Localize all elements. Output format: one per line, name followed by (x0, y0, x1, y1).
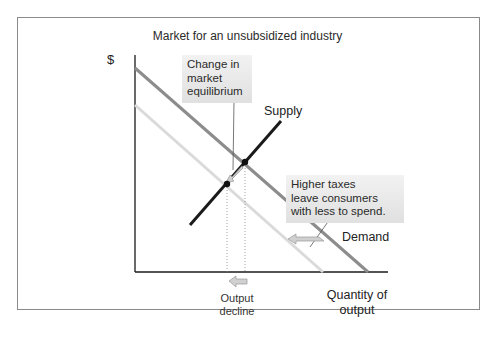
output-decline-line2: decline (212, 305, 262, 318)
equilibrium-callout-line2: market (187, 72, 247, 86)
equilibrium-point-original (242, 159, 248, 165)
taxes-callout-line1: Higher taxes (291, 178, 399, 192)
x-axis-label-line1: Quantity of (320, 288, 394, 303)
output-decline-arrow-icon (229, 276, 247, 287)
equilibrium-callout-line3: equilibrium (187, 85, 247, 99)
market-diagram (0, 0, 495, 341)
taxes-callout-line3: with less to spend. (291, 205, 399, 219)
x-axis-label-line2: output (320, 303, 394, 318)
supply-label: Supply (264, 104, 302, 118)
equilibrium-shift-arrow-icon (226, 166, 243, 183)
output-decline-line1: Output (212, 292, 262, 305)
demand-label: Demand (342, 230, 389, 244)
equilibrium-callout-line1: Change in (187, 58, 247, 72)
taxes-callout-line2: leave consumers (291, 192, 399, 206)
equilibrium-callout: Change in market equilibrium (182, 55, 252, 103)
taxes-callout: Higher taxes leave consumers with less t… (286, 175, 404, 223)
output-decline-label: Output decline (212, 292, 262, 318)
equilibrium-point-new (224, 181, 230, 187)
equilibrium-callout-leader (233, 100, 234, 170)
x-axis-label: Quantity of output (320, 288, 394, 318)
